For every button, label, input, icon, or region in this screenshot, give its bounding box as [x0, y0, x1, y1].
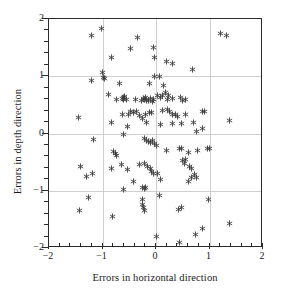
x-tick-minor	[219, 243, 220, 247]
data-point	[162, 89, 169, 96]
data-point	[113, 152, 120, 159]
data-point	[121, 93, 128, 100]
data-point	[113, 96, 120, 103]
data-point	[178, 120, 185, 127]
data-point	[77, 163, 84, 170]
data-point	[164, 106, 171, 113]
x-tick-major	[209, 243, 210, 249]
data-point	[120, 186, 127, 193]
data-point	[199, 225, 206, 232]
data-point	[132, 96, 139, 103]
y-tick-label: −2	[14, 241, 44, 253]
data-point	[145, 138, 152, 145]
y-tick-minor	[44, 144, 48, 145]
data-point	[140, 95, 147, 102]
y-tick-label: 2	[14, 12, 44, 24]
x-tick-major	[262, 243, 263, 249]
data-point	[226, 117, 233, 124]
data-point	[83, 173, 90, 180]
y-tick-minor	[44, 87, 48, 88]
data-point	[133, 108, 140, 115]
data-point	[191, 171, 198, 178]
data-point	[176, 145, 183, 152]
x-tick-major	[155, 243, 156, 249]
y-tick-minor	[44, 29, 48, 30]
data-point	[154, 92, 161, 99]
x-tick-label: 2	[247, 250, 277, 261]
data-point	[169, 60, 176, 67]
x-tick-minor	[166, 243, 167, 247]
x-tick-minor	[69, 243, 70, 247]
x-tick-minor	[176, 243, 177, 247]
y-tick-label: −1	[14, 184, 44, 196]
data-point	[157, 121, 164, 128]
data-point	[109, 213, 116, 220]
data-point	[139, 201, 146, 208]
data-point	[124, 166, 131, 173]
data-point	[178, 204, 185, 211]
x-tick-label: −1	[87, 250, 117, 261]
data-point	[88, 32, 95, 39]
x-tick-major	[102, 243, 103, 249]
data-point	[163, 147, 170, 154]
data-point	[145, 97, 152, 104]
y-tick-minor	[44, 167, 48, 168]
data-point	[160, 82, 167, 89]
y-tick-minor	[44, 236, 48, 237]
y-tick-minor	[44, 178, 48, 179]
data-point	[136, 161, 143, 168]
y-tick-minor	[44, 224, 48, 225]
x-tick-minor	[123, 243, 124, 247]
data-point	[144, 163, 151, 170]
scatter-plot-figure: Errors in depth direction Errors in hori…	[0, 0, 290, 297]
data-point	[194, 147, 201, 154]
data-point	[120, 94, 127, 101]
x-tick-minor	[251, 243, 252, 247]
data-point	[164, 96, 171, 103]
data-point	[90, 136, 97, 143]
x-axis-label: Errors in horizontal direction	[48, 272, 262, 283]
data-point	[169, 95, 176, 102]
data-point	[189, 66, 196, 73]
data-point	[147, 165, 154, 172]
y-axis-label: Errors in depth direction	[9, 18, 27, 265]
data-point	[148, 168, 155, 175]
gridline-horizontal	[49, 134, 261, 135]
data-point	[125, 111, 132, 118]
data-point	[151, 54, 158, 61]
data-point	[185, 149, 192, 156]
data-point	[88, 77, 95, 84]
data-point	[116, 80, 123, 87]
data-point	[138, 97, 145, 104]
data-point	[188, 165, 195, 172]
data-point	[143, 137, 150, 144]
data-point	[120, 131, 127, 138]
data-point	[179, 157, 186, 164]
y-tick-minor	[44, 155, 48, 156]
y-tick-minor	[44, 98, 48, 99]
data-point	[172, 111, 179, 118]
data-point	[190, 119, 197, 126]
data-point	[157, 176, 164, 183]
data-point	[124, 123, 131, 130]
data-point	[141, 160, 148, 167]
data-point	[182, 111, 189, 118]
data-point	[140, 204, 147, 211]
data-point	[130, 109, 137, 116]
data-point	[119, 111, 126, 118]
y-tick-label: 1	[14, 69, 44, 81]
data-point	[223, 32, 230, 39]
y-tick-minor	[44, 41, 48, 42]
x-tick-minor	[112, 243, 113, 247]
data-point	[205, 196, 212, 203]
data-point	[141, 96, 148, 103]
data-point	[181, 160, 188, 167]
data-point	[169, 111, 176, 118]
data-point	[127, 45, 134, 52]
data-point	[163, 58, 170, 65]
data-point	[75, 114, 82, 121]
data-point	[108, 119, 115, 126]
data-point	[182, 156, 189, 163]
data-point	[123, 96, 130, 103]
data-point	[159, 107, 166, 114]
